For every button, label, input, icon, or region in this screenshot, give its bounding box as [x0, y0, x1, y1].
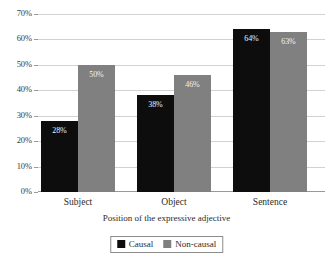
x-category-label-object: Object — [137, 197, 211, 208]
x-category-label-subject: Subject — [41, 197, 115, 208]
bar-group-sentence: 64% 63% — [233, 14, 307, 192]
bar-sentence-noncausal[interactable]: 63% — [270, 32, 307, 192]
y-tick-label-50: 50% — [0, 60, 32, 69]
bar-value-label: 38% — [137, 100, 174, 109]
bar-group-object: 38% 46% — [137, 14, 211, 192]
y-tick-label-0: 0% — [0, 187, 32, 196]
y-tick-label-20: 20% — [0, 136, 32, 145]
bar-value-label: 50% — [78, 70, 115, 79]
y-tick-mark-0 — [34, 192, 38, 193]
legend-label: Non-causal — [175, 239, 216, 249]
bar-sentence-causal[interactable]: 64% — [233, 29, 270, 192]
legend-swatch-icon — [163, 240, 171, 248]
legend-item-causal[interactable]: Causal — [117, 239, 154, 249]
bar-value-label: 46% — [174, 80, 211, 89]
bar-subject-causal[interactable]: 28% — [41, 121, 78, 192]
legend-item-noncausal[interactable]: Non-causal — [163, 239, 216, 249]
y-tick-label-30: 30% — [0, 111, 32, 120]
legend-label: Causal — [129, 239, 154, 249]
y-tick-label-40: 40% — [0, 85, 32, 94]
plot-area: 28% 50% 38% 46% 64% 63% — [38, 14, 325, 192]
legend-swatch-icon — [117, 240, 125, 248]
bar-subject-noncausal[interactable]: 50% — [78, 65, 115, 192]
bar-value-label: 28% — [41, 126, 78, 135]
chart-legend: Causal Non-causal — [110, 236, 223, 253]
x-axis-title: Position of the expressive adjective — [0, 213, 333, 224]
bar-value-label: 64% — [233, 34, 270, 43]
bar-value-label: 63% — [270, 37, 307, 46]
y-tick-label-60: 60% — [0, 34, 32, 43]
bar-group-subject: 28% 50% — [41, 14, 115, 192]
bar-object-noncausal[interactable]: 46% — [174, 75, 211, 192]
y-tick-label-10: 10% — [0, 162, 32, 171]
bar-object-causal[interactable]: 38% — [137, 95, 174, 192]
y-tick-label-70: 70% — [0, 9, 32, 18]
bar-chart: 70% 60% 50% 40% 30% 20% 10% 0% 28% 50% — [0, 0, 333, 262]
x-category-label-sentence: Sentence — [233, 197, 307, 208]
